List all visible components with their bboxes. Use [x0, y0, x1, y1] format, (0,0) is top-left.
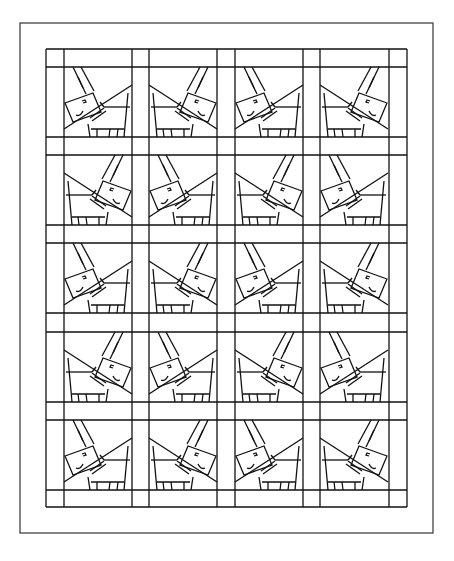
donkey-block-facing-right [235, 332, 303, 402]
quilt-canvas [0, 0, 454, 561]
donkey-block-facing-left [235, 420, 303, 490]
donkey-block-facing-left [320, 332, 388, 402]
donkey-block-facing-right [149, 67, 217, 137]
donkey-block-facing-right [235, 155, 303, 225]
donkey-block-facing-left [235, 67, 303, 137]
donkey-block-facing-left [320, 155, 388, 225]
donkey-block-facing-left [149, 155, 217, 225]
outer-border [20, 23, 433, 533]
donkey-block-facing-right [320, 67, 388, 137]
donkey-block-facing-right [64, 332, 132, 402]
donkey-block-facing-right [320, 420, 388, 490]
donkey-block-facing-left [235, 243, 303, 313]
donkey-block-facing-right [149, 420, 217, 490]
donkey-block-facing-right [149, 243, 217, 313]
quilt-blocks [64, 67, 388, 490]
donkey-block-facing-right [64, 155, 132, 225]
donkey-block-facing-left [64, 420, 132, 490]
donkey-block-facing-right [320, 243, 388, 313]
donkey-block-facing-left [64, 243, 132, 313]
donkey-block-facing-left [64, 67, 132, 137]
donkey-block-facing-left [149, 332, 217, 402]
